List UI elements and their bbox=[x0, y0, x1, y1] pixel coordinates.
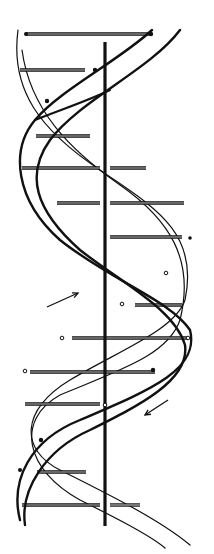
dna-double-helix-diagram bbox=[0, 0, 214, 554]
arrow-up-right-icon bbox=[47, 293, 78, 307]
arrow-down-left-icon bbox=[145, 400, 168, 415]
